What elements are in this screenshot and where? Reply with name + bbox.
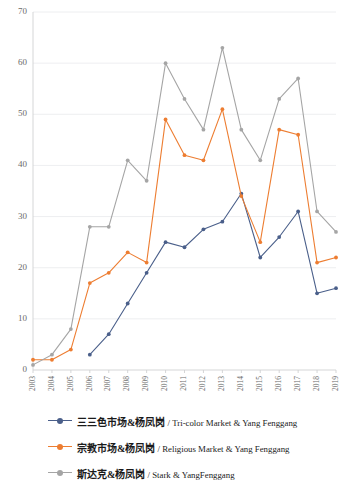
data-point-1-2019 [334,256,338,260]
data-point-0-2013 [220,220,224,224]
legend-label-cn-1: 宗教市场&杨凤岗 [77,443,155,454]
y-tick-label-50: 50 [18,108,28,118]
legend-item-tri-color-market[interactable]: 三三色市场&杨凤岗 / Tri-color Market & Yang Feng… [0,408,342,434]
x-tick-label-2005: 2005 [66,376,75,391]
x-tick-label-2016: 2016 [274,376,283,391]
series-line-1 [33,109,336,360]
data-point-1-2018 [315,261,319,265]
x-tick-label-2014: 2014 [236,376,245,391]
data-point-1-2009 [145,261,149,265]
data-point-1-2005 [69,348,73,352]
data-point-1-2017 [296,133,300,137]
data-point-2-2019 [334,230,338,234]
x-tick-label-2018: 2018 [312,376,321,391]
x-tick-label-2013: 2013 [217,376,226,391]
y-tick-label-70: 70 [18,6,28,16]
legend-marker-icon-2 [48,467,72,479]
legend-label-2: 斯达克&杨凤岗 / Stark & YangFenggang [77,466,235,481]
data-point-2-2013 [220,46,224,50]
data-point-2-2017 [296,77,300,81]
plot-area: 010203040506070 200320042005200620072008… [0,0,342,405]
data-point-1-2010 [164,118,168,122]
x-tick-label-2010: 2010 [160,376,169,391]
data-point-2-2003 [31,363,35,367]
data-point-2-2005 [69,327,73,331]
data-point-2-2010 [164,61,168,65]
data-point-2-2009 [145,179,149,183]
data-point-2-2015 [258,158,262,162]
data-point-0-2011 [183,245,187,249]
x-tick-label-2008: 2008 [122,376,131,391]
data-point-1-2014 [239,194,243,198]
data-point-0-2009 [145,271,149,275]
x-tick-label-2007: 2007 [103,376,112,391]
data-point-0-2007 [107,332,111,336]
line-chart-svg: 010203040506070 200320042005200620072008… [0,0,342,405]
data-point-1-2015 [258,240,262,244]
x-tick-label-2011: 2011 [179,376,188,391]
y-axis-tick-labels: 010203040506070 [18,6,28,374]
legend-item-religious-market[interactable]: 宗教市场&杨凤岗 / Religious Market & Yang Fengg… [0,434,342,460]
data-point-0-2006 [88,353,92,357]
x-tick-label-2003: 2003 [28,376,37,391]
data-point-1-2004 [50,358,54,362]
y-tick-label-0: 0 [23,364,28,374]
y-tick-label-30: 30 [18,211,28,221]
data-point-1-2006 [88,281,92,285]
chart-container: 010203040506070 200320042005200620072008… [0,0,342,491]
data-point-0-2008 [126,302,130,306]
y-tick-label-60: 60 [18,57,28,67]
data-point-1-2013 [220,107,224,111]
legend-marker-icon-0 [48,415,72,427]
data-point-2-2008 [126,158,130,162]
legend-label-en-1: Religious Market & Yang Fenggang [162,444,289,454]
data-point-0-2017 [296,210,300,214]
legend-label-cn-2: 斯达克&杨凤岗 [77,469,145,480]
data-point-0-2012 [202,227,206,231]
y-tick-label-40: 40 [18,159,28,169]
x-tick-label-2015: 2015 [255,376,264,391]
data-point-1-2012 [202,158,206,162]
data-point-2-2004 [50,353,54,357]
legend-marker-icon-1 [48,441,72,453]
data-point-2-2018 [315,210,319,214]
series-line-0 [90,194,336,355]
chart-legend: 三三色市场&杨凤岗 / Tri-color Market & Yang Feng… [0,408,342,491]
data-point-1-2016 [277,128,281,132]
data-point-0-2018 [315,291,319,295]
data-point-2-2006 [88,225,92,229]
data-point-1-2011 [183,153,187,157]
x-tick-label-2009: 2009 [141,376,150,391]
x-tick-label-2017: 2017 [293,376,302,391]
data-point-2-2014 [239,128,243,132]
legend-item-stark[interactable]: 斯达克&杨凤岗 / Stark & YangFenggang [0,460,342,486]
x-tick-label-2019: 2019 [331,376,340,391]
legend-label-en-2: Stark & YangFenggang [152,470,234,480]
legend-label-cn-0: 三三色市场&杨凤岗 [77,417,165,428]
x-tick-label-2012: 2012 [198,376,207,391]
y-tick-label-20: 20 [18,262,28,272]
data-point-2-2016 [277,97,281,101]
data-point-1-2007 [107,271,111,275]
x-axis-tick-labels: 2003200420052006200720082009201020112012… [28,376,340,391]
legend-label-1: 宗教市场&杨凤岗 / Religious Market & Yang Fengg… [77,440,290,455]
data-point-2-2012 [202,128,206,132]
gridlines-group [33,12,336,373]
data-point-1-2008 [126,250,130,254]
data-point-0-2019 [334,286,338,290]
x-tick-label-2006: 2006 [85,376,94,391]
data-point-2-2011 [183,97,187,101]
x-tick-label-2004: 2004 [47,376,56,391]
data-point-0-2016 [277,235,281,239]
data-point-2-2007 [107,225,111,229]
series-line-2 [33,48,336,365]
data-point-0-2015 [258,256,262,260]
data-point-0-2010 [164,240,168,244]
legend-label-0: 三三色市场&杨凤岗 / Tri-color Market & Yang Feng… [77,414,297,429]
legend-label-en-0: Tri-color Market & Yang Fenggang [172,418,297,428]
y-tick-label-10: 10 [18,313,28,323]
data-point-1-2003 [31,358,35,362]
